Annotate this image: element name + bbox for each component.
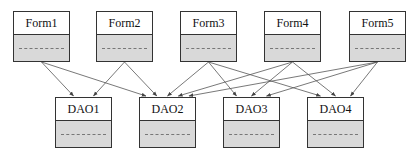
class-box-title: DAO2 (140, 98, 195, 121)
dashed-divider (61, 134, 106, 135)
class-box-form1: Form1 (13, 11, 70, 62)
class-box-body (308, 121, 363, 147)
dashed-divider (313, 134, 358, 135)
class-box-dao4: DAO4 (307, 97, 364, 148)
edge-form5-to-dao4 (351, 62, 378, 96)
dashed-divider (270, 48, 315, 49)
class-box-form2: Form2 (96, 11, 153, 62)
dashed-divider (102, 48, 147, 49)
class-box-title: DAO4 (308, 98, 363, 121)
dashed-divider (355, 48, 400, 49)
class-box-title: Form2 (97, 12, 152, 35)
edge-form4-to-dao2 (178, 62, 292, 96)
class-box-body (14, 35, 69, 61)
class-box-body (97, 35, 152, 61)
edge-form2-to-dao1 (94, 62, 125, 96)
class-box-form5: Form5 (349, 11, 406, 62)
class-box-body (140, 121, 195, 147)
edge-form3-to-dao2 (168, 62, 209, 96)
edge-form4-to-dao3 (252, 62, 293, 96)
class-box-title: Form5 (350, 12, 405, 35)
class-box-form3: Form3 (180, 11, 237, 62)
class-box-dao1: DAO1 (55, 97, 112, 148)
class-box-title: DAO1 (56, 98, 111, 121)
edge-form3-to-dao3 (209, 62, 237, 96)
dashed-divider (186, 48, 231, 49)
class-box-form4: Form4 (264, 11, 321, 62)
class-box-dao3: DAO3 (223, 97, 280, 148)
dashed-divider (229, 134, 274, 135)
class-box-title: DAO3 (224, 98, 279, 121)
class-box-body (181, 35, 236, 61)
class-box-title: Form3 (181, 12, 236, 35)
class-box-body (56, 121, 111, 147)
class-box-body (265, 35, 320, 61)
dashed-divider (145, 134, 190, 135)
class-box-title: Form4 (265, 12, 320, 35)
class-box-dao2: DAO2 (139, 97, 196, 148)
edge-form4-to-dao4 (293, 62, 336, 96)
edge-form3-to-dao4 (209, 62, 321, 96)
class-dependency-diagram: Form1Form2Form3Form4Form5DAO1DAO2DAO3DAO… (0, 0, 413, 158)
class-box-body (224, 121, 279, 147)
class-box-title: Form1 (14, 12, 69, 35)
class-box-body (350, 35, 405, 61)
dashed-divider (19, 48, 64, 49)
